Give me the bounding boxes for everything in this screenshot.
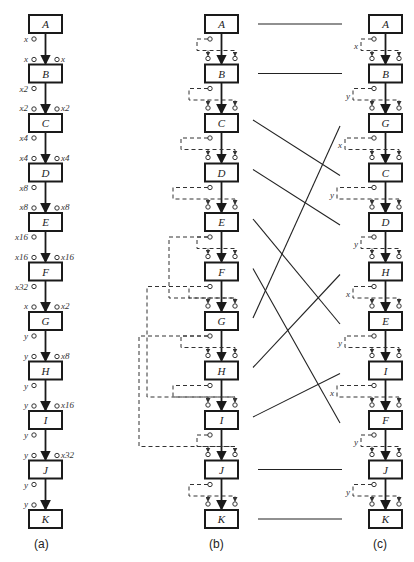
input-left-label: x2 — [19, 103, 29, 113]
input-pin-icon — [370, 403, 374, 407]
panel-b-node-label: D — [217, 167, 226, 179]
output-label: x8 — [19, 183, 29, 193]
panel-c: ABGCDHEIFJKxyxyyxyxyy — [329, 15, 402, 528]
input-right-label: x — [60, 54, 65, 64]
panel-b-feedback-wire — [197, 39, 235, 56]
input-right-label: x8 — [60, 351, 70, 361]
panel-a-node-label: E — [41, 216, 49, 228]
mapping-line-e — [253, 219, 340, 324]
wire-label: y — [345, 487, 350, 497]
output-pin-icon — [372, 136, 376, 140]
input-pin-icon — [206, 155, 210, 159]
output-label: x — [23, 34, 28, 44]
input-pin-icon — [233, 155, 237, 159]
wire-label: x — [353, 41, 358, 51]
diagram-canvas: ABCDEFGHIJKxx2xxx4x2x2x8x4x4x16x8x8x32x1… — [0, 0, 414, 562]
output-pin-icon — [208, 37, 212, 41]
wire-label: y — [337, 338, 342, 348]
mapping-line-d — [253, 170, 340, 226]
panel-b-node-label: F — [217, 266, 225, 278]
output-pin-icon — [372, 334, 376, 338]
panel-c-feedback-wire — [353, 485, 399, 502]
input-pin-icon — [206, 205, 210, 209]
output-pin-icon — [372, 86, 376, 90]
caption-c: (c) — [373, 537, 387, 551]
input-pin-icon — [397, 353, 401, 357]
input-pin-icon — [233, 304, 237, 308]
panel-b-node-label: G — [218, 315, 226, 327]
panel-b-node-label: C — [218, 117, 226, 129]
input-pin-icon — [397, 205, 401, 209]
input-pin-icon — [55, 354, 59, 358]
output-label: y — [23, 381, 28, 391]
output-label: y — [23, 480, 28, 490]
input-pin-icon — [370, 205, 374, 209]
input-pin-icon — [32, 305, 36, 309]
wire-label: y — [353, 437, 358, 447]
panel-c-node-label: E — [381, 315, 389, 327]
output-label: y — [23, 331, 28, 341]
input-pin-icon — [32, 404, 36, 408]
output-pin-icon — [372, 383, 376, 387]
panel-b-node-label: K — [217, 513, 226, 525]
wire-label: y — [345, 91, 350, 101]
panel-b-node-label: H — [217, 365, 227, 377]
input-pin-icon — [233, 452, 237, 456]
input-pin-icon — [32, 255, 36, 259]
input-pin-icon — [32, 107, 36, 111]
output-pin-icon — [372, 235, 376, 239]
panel-c-feedback-wire — [361, 39, 399, 56]
input-pin-icon — [233, 56, 237, 60]
input-pin-icon — [32, 57, 36, 61]
panel-a-node-label: K — [41, 513, 50, 525]
output-pin-icon — [372, 37, 376, 41]
output-label: x2 — [19, 84, 29, 94]
wire-label: y — [329, 190, 334, 200]
panel-c-feedback-wire — [337, 188, 399, 205]
output-pin-icon — [32, 482, 36, 486]
panel-a-node-label: G — [42, 315, 50, 327]
input-pin-icon — [233, 205, 237, 209]
output-pin-icon — [208, 185, 212, 189]
input-pin-icon — [397, 56, 401, 60]
panel-c-node-label: F — [381, 414, 389, 426]
panel-c-node-label: B — [382, 68, 389, 80]
input-left-label: x4 — [19, 153, 29, 163]
panel-c-node-label: D — [381, 216, 390, 228]
output-pin-icon — [208, 383, 212, 387]
output-pin-icon — [32, 86, 36, 90]
input-pin-icon — [32, 156, 36, 160]
input-pin-icon — [233, 106, 237, 110]
output-pin-icon — [32, 383, 36, 387]
output-pin-icon — [208, 136, 212, 140]
panel-a-node-label: A — [41, 18, 49, 30]
input-right-label: x4 — [60, 153, 70, 163]
output-pin-icon — [208, 334, 212, 338]
output-pin-icon — [32, 284, 36, 288]
input-pin-icon — [370, 304, 374, 308]
panel-c-feedback-wire — [361, 237, 399, 254]
panel-b-feedback-wire — [189, 89, 235, 106]
input-left-label: y — [23, 351, 28, 361]
output-pin-icon — [208, 284, 212, 288]
input-pin-icon — [32, 453, 36, 457]
input-left-label: y — [23, 450, 28, 460]
panel-c-node-label: G — [382, 117, 390, 129]
input-pin-icon — [32, 354, 36, 358]
panel-b-node-label: B — [218, 68, 225, 80]
input-right-label: x2 — [60, 301, 70, 311]
input-pin-icon — [55, 206, 59, 210]
input-pin-icon — [233, 403, 237, 407]
input-pin-icon — [233, 502, 237, 506]
output-pin-icon — [32, 235, 36, 239]
output-label: x16 — [14, 232, 28, 242]
input-right-label: x32 — [60, 450, 74, 460]
mapping-lines — [253, 24, 342, 519]
input-left-label: x — [23, 301, 28, 311]
panel-b-feedback-wire — [173, 188, 235, 205]
panel-c-node-label: A — [381, 18, 389, 30]
input-pin-icon — [206, 403, 210, 407]
input-pin-icon — [32, 206, 36, 210]
input-pin-icon — [206, 452, 210, 456]
input-pin-icon — [233, 353, 237, 357]
